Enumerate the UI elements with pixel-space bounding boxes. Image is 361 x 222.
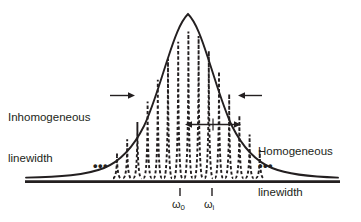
inhomogeneous-right-arrow	[238, 92, 262, 98]
ellipsis-right: •••	[258, 158, 273, 173]
homogeneous-line	[123, 139, 131, 178]
homogeneous-line	[164, 59, 172, 178]
ellipsis-left: •••	[93, 158, 108, 173]
homogeneous-linewidth-label-line2: linewidth	[258, 186, 333, 200]
omega-i-symbol: ω	[204, 198, 213, 210]
inhomogeneous-linewidth-label: Inhomogeneous linewidth	[8, 84, 90, 193]
axis-tick-label-omega-zero: ω0	[172, 198, 185, 210]
homogeneous-line	[225, 94, 233, 178]
omega-zero-symbol: ω	[172, 198, 181, 210]
figure-container: Inhomogeneous linewidth Homogeneous line…	[0, 0, 361, 222]
axis-ticks-group	[180, 188, 212, 196]
omega-zero-subscript: 0	[181, 203, 185, 212]
axis-tick-label-omega-i: ωi	[204, 198, 214, 210]
homogeneous-line	[174, 42, 182, 178]
homogeneous-line	[113, 153, 121, 178]
homogeneous-line	[154, 80, 162, 178]
inhomogeneous-linewidth-label-line1: Inhomogeneous	[8, 111, 90, 125]
homogeneous-line	[195, 36, 203, 178]
homogeneous-line	[133, 122, 141, 178]
inhomogeneous-left-arrow	[110, 92, 135, 98]
homogeneous-line	[184, 32, 192, 179]
homogeneous-linewidth-label-line1: Homogeneous	[258, 145, 333, 159]
homogeneous-line	[246, 135, 254, 179]
homogeneous-lines-group	[113, 32, 264, 179]
inhomogeneous-linewidth-label-line2: linewidth	[8, 152, 90, 166]
